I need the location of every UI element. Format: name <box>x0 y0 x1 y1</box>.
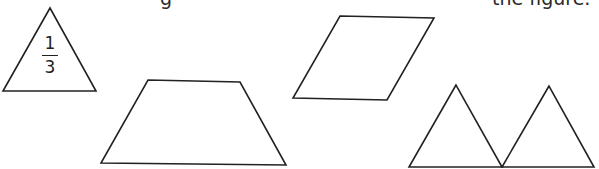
unit-fraction-label: 1 3 <box>38 35 62 76</box>
shapes-figure <box>0 0 599 169</box>
parallelogram-shape <box>293 16 434 100</box>
fraction-bar <box>42 55 58 56</box>
trapezoid-shape <box>101 80 286 165</box>
fraction-denominator: 3 <box>38 59 62 76</box>
fraction-numerator: 1 <box>38 35 62 52</box>
triangle-right-shape <box>502 86 594 167</box>
triangle-left-shape <box>409 85 502 167</box>
